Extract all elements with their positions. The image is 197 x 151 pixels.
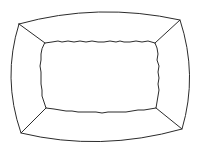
connector-top-left: [19, 24, 45, 43]
connector-bottom-right: [156, 108, 182, 129]
connector-top-right: [155, 20, 180, 43]
frame-drawing: [0, 0, 197, 151]
outer-frame: [11, 12, 190, 142]
inner-panel: [40, 41, 159, 113]
connector-bottom-left: [21, 108, 46, 133]
diagram-canvas: [0, 0, 197, 151]
